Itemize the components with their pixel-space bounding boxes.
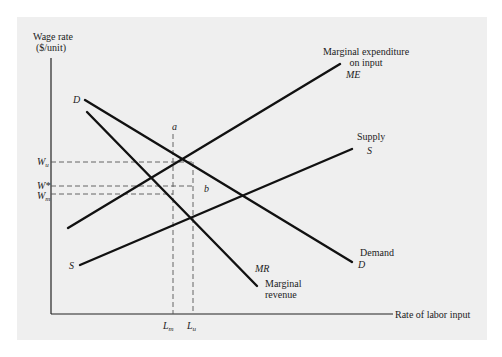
demand-symbol-start: D <box>73 94 80 105</box>
x-tick-lu-sub: u <box>193 325 197 333</box>
mr-symbol: MR <box>255 263 269 274</box>
demand-curve <box>85 100 352 262</box>
point-a-label: a <box>172 121 177 132</box>
x-axis-label: Rate of labor input <box>395 309 470 320</box>
x-tick-lm-sub: m <box>169 325 174 333</box>
me-name-line1: Marginal expenditure <box>306 46 426 57</box>
y-axis-label-line2: ($/unit) <box>33 42 73 53</box>
me-name: Marginal expenditure on input <box>306 46 426 68</box>
y-axis-label-line1: Wage rate <box>33 31 73 42</box>
y-tick-wu-sub: u <box>45 161 49 169</box>
demand-symbol-end: D <box>358 259 365 270</box>
supply-curve <box>80 149 352 265</box>
supply-symbol-end: S <box>367 145 372 156</box>
mr-name-line1: Marginal <box>265 278 301 289</box>
mr-name: Marginal revenue <box>265 278 301 300</box>
y-tick-wm-sub: m <box>45 195 50 203</box>
supply-name: Supply <box>357 131 385 142</box>
demand-name: Demand <box>360 247 394 258</box>
x-tick-lm: Lm <box>163 320 174 335</box>
point-b-label: b <box>204 183 209 194</box>
me-symbol: ME <box>346 69 360 80</box>
y-tick-wu: Wu <box>37 156 49 171</box>
y-axis-label: Wage rate ($/unit) <box>33 31 73 53</box>
me-curve <box>68 64 340 228</box>
me-name-line2: on input <box>306 57 426 68</box>
diagram-canvas <box>0 0 502 357</box>
supply-symbol-start: S <box>69 260 74 271</box>
mr-curve <box>87 112 257 286</box>
mr-name-line2: revenue <box>265 289 301 300</box>
y-tick-wm: Wm <box>37 190 50 205</box>
x-tick-lu: Lu <box>187 320 196 335</box>
